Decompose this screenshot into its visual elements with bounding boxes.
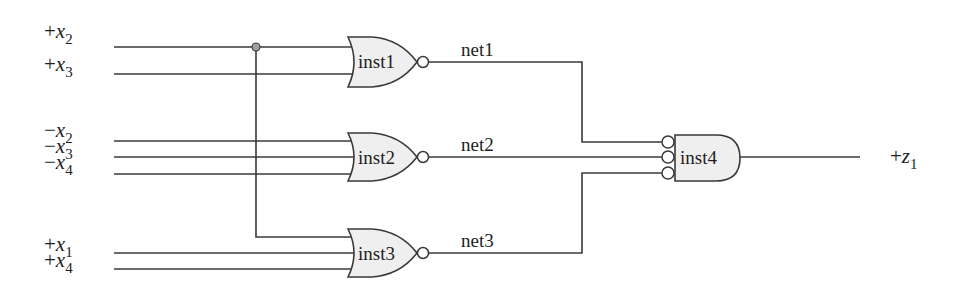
gate-inst3: inst3 — [348, 229, 429, 277]
inversion-bubble-icon — [662, 136, 674, 148]
net-label-net3: net3 — [461, 230, 494, 251]
gate-label: inst4 — [680, 147, 717, 168]
gate-inst4: inst4 — [662, 135, 740, 181]
wire-plus-x2-branch — [256, 47, 356, 237]
gate-inst1: inst1 — [348, 37, 429, 87]
input-label-plus-x2: +x2 — [44, 19, 73, 47]
input-label-plus-x3: +x3 — [44, 52, 73, 80]
logic-circuit-diagram: +x2 +x3 −x2 −x3 −x4 +x1 +x4 inst1 inst2 … — [0, 0, 958, 297]
net-label-net2: net2 — [461, 134, 494, 155]
net-label-net1: net1 — [461, 39, 494, 60]
gate-label: inst1 — [358, 51, 395, 72]
inversion-bubble-icon — [418, 57, 429, 68]
gate-label: inst3 — [358, 243, 395, 264]
gate-inst2: inst2 — [348, 133, 429, 181]
inversion-bubble-icon — [418, 152, 429, 163]
inversion-bubble-icon — [418, 248, 429, 259]
junction-dot — [252, 43, 260, 51]
inversion-bubble-icon — [662, 167, 674, 179]
output-label-plus-z1: +z1 — [890, 144, 918, 172]
gate-label: inst2 — [358, 147, 395, 168]
wire-net1 — [429, 62, 662, 142]
inversion-bubble-icon — [662, 151, 674, 163]
